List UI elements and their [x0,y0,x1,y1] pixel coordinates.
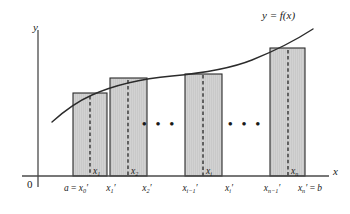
sample-label-xi: xi [206,167,212,177]
tick-label-x1: x1′ [106,184,115,194]
x-axis-label: x [333,166,338,177]
figure-canvas [0,0,350,214]
tick-label-xi-1: xi−1′ [182,184,197,194]
ellipsis-left: • • • [142,117,177,130]
sample-label-x2: x2 [131,167,138,177]
sample-label-xn: xn [291,167,298,177]
tick-label-x2: x2′ [142,184,151,194]
ellipsis-right: • • • [228,117,263,130]
tick-label-xn-b: xn′ = b [298,184,322,194]
tick-label-xn-1: xn−1′ [264,184,281,194]
tick-label-xi: xi′ [225,184,233,194]
sample-label-x1: x1 [93,167,100,177]
curve-label: y = f(x) [262,10,295,21]
y-axis-label: y [33,22,38,33]
riemann-sum-figure: • • • • • • y = f(x) y x 0 x1 x2 xi xn a… [0,0,350,214]
origin-label: 0 [27,179,33,190]
tick-label-a-x0: a = x0′ [64,184,88,194]
